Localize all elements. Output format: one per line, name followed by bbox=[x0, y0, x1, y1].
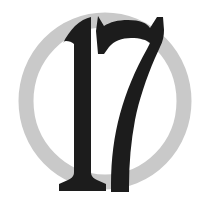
emblem-svg: 17 bbox=[0, 0, 213, 206]
emblem-canvas: 17 bbox=[0, 0, 213, 206]
